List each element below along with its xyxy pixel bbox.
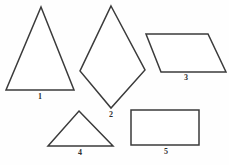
- shape-label-5: 5: [159, 147, 173, 156]
- shapes-canvas: [0, 0, 229, 165]
- shapes-figure: 1 2 3 4 5: [0, 0, 229, 165]
- shape-label-2: 2: [104, 110, 118, 119]
- shape-label-1: 1: [33, 92, 47, 101]
- shape-label-4: 4: [73, 148, 87, 157]
- kite-quadrilateral: [80, 6, 145, 108]
- triangle-isosceles-tall: [6, 7, 74, 90]
- shape-label-3: 3: [179, 73, 193, 82]
- rectangle: [131, 110, 199, 145]
- parallelogram: [146, 34, 226, 72]
